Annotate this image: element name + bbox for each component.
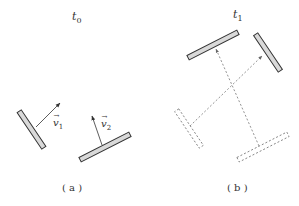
trajectory-bar-1 [190,56,262,126]
v2-vector-mark: → [102,113,108,121]
panel-b: t1 ( b ) [175,8,289,193]
bar-2-final [254,33,283,72]
trajectory-bar-2 [216,49,259,146]
bar-1-final [187,30,239,60]
time-label-t0: t0 [72,10,82,25]
caption-a: ( a ) [62,182,82,193]
diagram-canvas: t0 v1 → v2 → ( a ) t1 [0,0,299,206]
caption-b: ( b ) [227,182,248,193]
panel-a: t0 v1 → v2 → ( a ) [17,10,131,193]
v1-vector-mark: → [54,112,60,120]
bar-1-initial-ghost [175,109,204,148]
bar-2-initial-ghost [237,132,289,162]
bar-2 [79,132,131,162]
bar-1 [17,110,46,149]
time-label-t1: t1 [233,8,243,23]
